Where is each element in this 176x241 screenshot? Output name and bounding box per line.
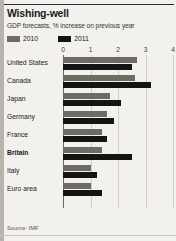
bars-and-gridlines: United StatesCanadaJapanGermanyFranceBri… xyxy=(7,55,174,208)
category-label-euro-area: Euro area xyxy=(7,185,37,193)
x-tick-2: 2 xyxy=(116,46,120,54)
bar-2010-britain xyxy=(63,147,102,153)
legend-swatch-2011 xyxy=(58,36,71,42)
legend-swatch-2010 xyxy=(7,36,20,42)
bar-2011-euro-area xyxy=(63,190,102,196)
left-accent-rule xyxy=(0,0,4,241)
chart-subtitle: GDP forecasts, % increase on previous ye… xyxy=(7,21,174,30)
legend-label-2010: 2010 xyxy=(23,35,38,42)
chart-row[interactable]: Germany xyxy=(7,109,174,127)
x-tick-4: 4 xyxy=(171,46,175,54)
category-label-britain: Britain xyxy=(7,149,29,157)
bar-2010-germany xyxy=(63,111,107,117)
bar-2010-france xyxy=(63,129,102,135)
chart-row[interactable]: Britain xyxy=(7,145,174,163)
chart-row[interactable]: United States xyxy=(7,55,174,73)
legend-entry-2011[interactable]: 2011 xyxy=(58,35,89,42)
chart-row[interactable]: Euro area xyxy=(7,181,174,199)
chart-row[interactable]: France xyxy=(7,127,174,145)
category-label-united-states: United States xyxy=(7,59,48,67)
chart-legend: 20102011 xyxy=(7,34,174,43)
bar-2011-canada xyxy=(63,82,151,88)
plot-area: 01234 United StatesCanadaJapanGermanyFra… xyxy=(7,46,174,208)
top-divider-rule xyxy=(4,4,174,5)
chart-row[interactable]: Italy xyxy=(7,163,174,181)
chart-card: Wishing-well GDP forecasts, % increase o… xyxy=(0,0,176,241)
bar-2011-britain xyxy=(63,154,132,160)
bar-2010-italy xyxy=(63,165,91,171)
legend-entry-2010[interactable]: 2010 xyxy=(7,35,38,42)
bar-2010-canada xyxy=(63,75,135,81)
bar-2010-euro-area xyxy=(63,183,91,189)
chart-inner-content: Wishing-well GDP forecasts, % increase o… xyxy=(7,7,174,239)
category-label-canada: Canada xyxy=(7,77,31,85)
bar-2011-united-states xyxy=(63,64,132,70)
bar-2010-japan xyxy=(63,93,110,99)
bar-2011-italy xyxy=(63,172,97,178)
category-label-italy: Italy xyxy=(7,167,19,175)
legend-label-2011: 2011 xyxy=(74,35,89,42)
x-axis-tick-labels: 01234 xyxy=(7,46,174,55)
chart-title: Wishing-well xyxy=(7,7,174,19)
x-tick-1: 1 xyxy=(89,46,93,54)
chart-row[interactable]: Japan xyxy=(7,91,174,109)
x-tick-3: 3 xyxy=(144,46,148,54)
bar-2011-japan xyxy=(63,100,121,106)
source-note: Source: IMF xyxy=(7,225,39,232)
category-label-france: France xyxy=(7,131,28,139)
x-tick-0: 0 xyxy=(61,46,65,54)
bar-2011-france xyxy=(63,136,107,142)
bar-2010-united-states xyxy=(63,57,137,63)
category-label-japan: Japan xyxy=(7,95,26,103)
category-label-germany: Germany xyxy=(7,113,35,121)
bar-2011-germany xyxy=(63,118,114,124)
chart-row[interactable]: Canada xyxy=(7,73,174,91)
